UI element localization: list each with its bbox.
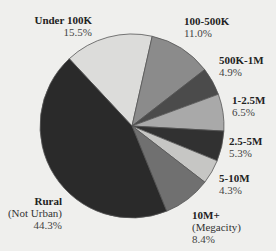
label-percent: 5.3% <box>229 147 262 159</box>
label-percent: 11.0% <box>184 27 229 39</box>
label-under-100k: Under 100K 15.5% <box>32 14 92 38</box>
label-percent: 15.5% <box>32 26 92 38</box>
label-name: 2.5-5M <box>229 135 262 147</box>
label-percent: 44.3% <box>4 219 62 231</box>
label-name: 500K-1M <box>219 54 264 66</box>
label-5-10m: 5-10M 4.3% <box>219 172 250 196</box>
label-name: 1-2.5M <box>232 94 265 106</box>
label-name: Rural <box>4 195 62 207</box>
label-500k-1m: 500K-1M 4.9% <box>219 54 264 78</box>
label-sublabel: (Not Urban) <box>4 207 62 219</box>
label-100-500k: 100-500K 11.0% <box>184 15 229 39</box>
label-name: 100-500K <box>184 15 229 27</box>
label-name: 10M+ <box>192 209 241 221</box>
label-percent: 4.3% <box>219 184 250 196</box>
label-percent: 6.5% <box>232 106 265 118</box>
label-10m-plus: 10M+ (Megacity) 8.4% <box>192 209 241 245</box>
label-name: 5-10M <box>219 172 250 184</box>
label-name: Under 100K <box>32 14 92 26</box>
pie-slices <box>40 34 224 218</box>
label-1-2-5m: 1-2.5M 6.5% <box>232 94 265 118</box>
label-percent: 4.9% <box>219 66 264 78</box>
label-percent: 8.4% <box>192 233 241 245</box>
label-sublabel: (Megacity) <box>192 221 241 233</box>
label-2-5-5m: 2.5-5M 5.3% <box>229 135 262 159</box>
label-rural: Rural (Not Urban) 44.3% <box>4 195 62 231</box>
